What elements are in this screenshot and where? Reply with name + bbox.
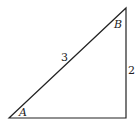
hypotenuse-length-label: 3	[61, 51, 68, 64]
vertical-leg-length-label: 2	[128, 64, 135, 77]
vertex-label-b: B	[113, 18, 122, 31]
vertex-label-a: A	[18, 106, 27, 119]
triangle-diagram: A B 3 2	[0, 0, 138, 128]
